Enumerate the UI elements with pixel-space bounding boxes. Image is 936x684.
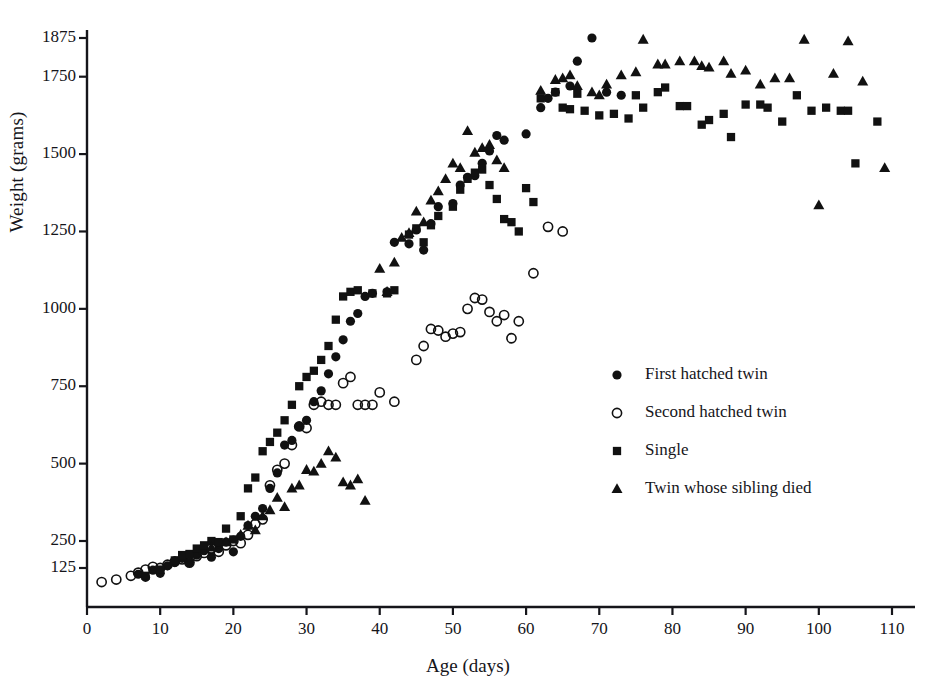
x-tick-label: 0	[61, 619, 113, 639]
data-point-filled-square	[580, 107, 588, 115]
data-point-filled-square	[493, 195, 501, 203]
data-point-filled-square	[756, 100, 764, 108]
data-point-filled-circle	[573, 57, 582, 66]
data-point-filled-square	[873, 117, 881, 125]
x-tick-label: 40	[354, 619, 406, 639]
data-point-filled-triangle	[725, 68, 736, 78]
data-point-filled-circle	[521, 129, 530, 138]
x-tick-label: 90	[720, 619, 772, 639]
data-point-filled-triangle	[491, 155, 502, 165]
data-point-open-circle	[463, 304, 472, 313]
data-point-filled-square	[639, 104, 647, 112]
y-tick-label: 1875	[10, 27, 76, 47]
data-point-filled-square	[222, 524, 230, 532]
data-point-filled-square	[419, 238, 427, 246]
data-point-open-circle	[346, 372, 355, 381]
data-point-filled-square	[851, 159, 859, 167]
data-point-filled-square	[193, 544, 201, 552]
data-point-filled-triangle	[440, 173, 451, 183]
data-point-filled-circle	[390, 238, 399, 247]
data-point-filled-square	[237, 512, 245, 520]
data-point-filled-square	[720, 110, 728, 118]
data-point-filled-triangle	[389, 257, 400, 267]
data-point-open-circle	[112, 575, 121, 584]
data-point-filled-square	[595, 111, 603, 119]
data-point-filled-square	[244, 484, 252, 492]
data-point-filled-square	[566, 105, 574, 113]
data-point-filled-square	[266, 438, 274, 446]
data-point-open-circle	[412, 355, 421, 364]
data-point-filled-circle	[331, 352, 340, 361]
y-tick-label: 1000	[10, 298, 76, 318]
data-point-filled-circle	[419, 245, 428, 254]
data-point-filled-square	[317, 356, 325, 364]
data-point-filled-square	[573, 90, 581, 98]
data-point-filled-square	[185, 550, 193, 558]
y-tick-label: 1750	[10, 66, 76, 86]
x-tick-label: 110	[866, 619, 918, 639]
y-tick-label: 125	[10, 557, 76, 577]
data-point-filled-triangle	[484, 139, 495, 149]
data-point-filled-triangle	[879, 162, 890, 172]
data-point-filled-circle	[587, 33, 596, 42]
data-point-filled-circle	[617, 91, 626, 100]
data-point-filled-triangle	[638, 34, 649, 44]
x-tick-label: 20	[207, 619, 259, 639]
data-point-filled-square	[200, 541, 208, 549]
data-point-filled-circle	[324, 369, 333, 378]
data-point-filled-triangle	[564, 69, 575, 79]
data-point-filled-square	[807, 107, 815, 115]
data-point-filled-triangle	[601, 79, 612, 89]
data-point-filled-square	[273, 429, 281, 437]
data-point-filled-circle	[317, 386, 326, 395]
data-point-filled-circle	[500, 136, 509, 145]
x-tick-label: 60	[500, 619, 552, 639]
legend-label: First hatched twin	[645, 364, 768, 384]
data-point-filled-square	[390, 286, 398, 294]
data-point-filled-square	[822, 104, 830, 112]
figure-caption-fragment	[40, 668, 900, 680]
data-point-filled-square	[727, 133, 735, 141]
data-point-filled-square	[515, 227, 523, 235]
x-tick-label: 70	[573, 619, 625, 639]
data-point-filled-triangle	[857, 76, 868, 86]
data-point-filled-square	[741, 100, 749, 108]
data-point-open-circle	[558, 227, 567, 236]
data-point-filled-triangle	[718, 56, 729, 66]
y-tick-label: 750	[10, 375, 76, 395]
legend-label: Twin whose sibling died	[645, 478, 811, 498]
data-point-filled-square	[156, 565, 164, 573]
legend-marker-filled-circle	[612, 370, 621, 379]
data-point-filled-triangle	[272, 492, 283, 502]
data-point-open-circle	[507, 334, 516, 343]
data-point-filled-square	[339, 292, 347, 300]
legend-marker-filled-triangle	[611, 483, 622, 493]
data-point-filled-triangle	[535, 85, 546, 95]
data-point-open-circle	[97, 577, 106, 586]
data-point-open-circle	[280, 459, 289, 468]
data-point-filled-circle	[346, 317, 355, 326]
data-point-filled-square	[529, 198, 537, 206]
data-point-filled-square	[280, 416, 288, 424]
x-tick-label: 100	[793, 619, 845, 639]
data-point-filled-triangle	[799, 34, 810, 44]
data-point-filled-square	[844, 107, 852, 115]
data-point-filled-square	[456, 186, 464, 194]
data-point-filled-square	[258, 447, 266, 455]
data-point-filled-square	[141, 572, 149, 580]
data-point-filled-triangle	[674, 56, 685, 66]
data-point-filled-square	[171, 556, 179, 564]
y-tick-label: 1500	[10, 143, 76, 163]
data-point-open-circle	[375, 388, 384, 397]
y-tick-label: 250	[10, 530, 76, 550]
data-point-filled-square	[537, 94, 545, 102]
data-point-filled-triangle	[352, 473, 363, 483]
data-point-filled-triangle	[360, 495, 371, 505]
data-point-filled-triangle	[740, 65, 751, 75]
data-point-filled-square	[324, 342, 332, 350]
data-point-filled-square	[295, 382, 303, 390]
data-point-filled-triangle	[755, 79, 766, 89]
data-point-filled-square	[763, 104, 771, 112]
data-point-filled-square	[449, 203, 457, 211]
data-point-filled-square	[559, 104, 567, 112]
